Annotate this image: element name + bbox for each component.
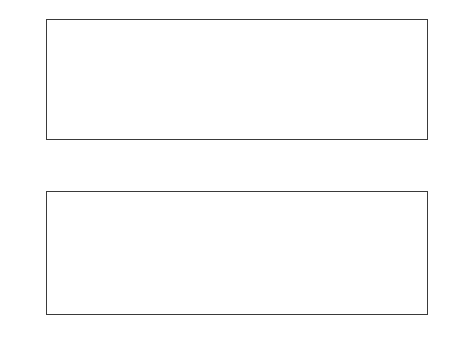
top-plot-curves — [47, 20, 428, 140]
bottom-plot-area — [46, 191, 428, 315]
bottom-panel — [0, 175, 457, 354]
bottom-plot-curves — [47, 192, 428, 315]
top-panel — [0, 0, 457, 175]
figure-canvas — [0, 0, 457, 354]
top-plot-area — [46, 19, 428, 140]
